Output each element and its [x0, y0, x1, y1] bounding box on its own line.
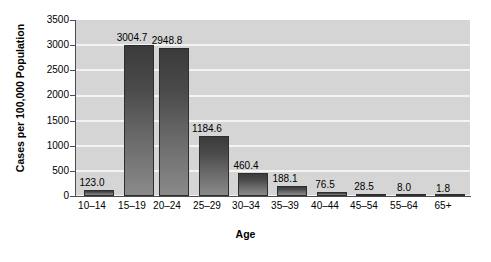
bar-value-label: 1184.6: [179, 123, 235, 134]
y-axis-tick-labels: 3500 3000 2500 2000 1500 1000 500 0: [29, 0, 69, 262]
y-tick-label: 500: [29, 166, 69, 176]
bar-value-label: 2948.8: [139, 35, 195, 46]
x-axis-line: [75, 196, 471, 197]
bar-value-label: 123.0: [64, 177, 120, 188]
y-tick-label: 3500: [29, 15, 69, 25]
bar-value-label: 460.4: [218, 160, 274, 171]
y-tick-label: 2000: [29, 90, 69, 100]
bar-chart: Cases per 100,000 Population 3500 3000 2…: [0, 0, 491, 262]
y-axis-title: Cases per 100,000 Population: [11, 0, 29, 196]
x-tick-label: 65+: [415, 200, 471, 211]
bar-value-label: 1.8: [415, 183, 471, 194]
bar[interactable]: [159, 48, 189, 196]
y-tick-label: 1500: [29, 116, 69, 126]
y-tick-label: 3000: [29, 40, 69, 50]
bar[interactable]: [124, 45, 154, 196]
y-tick-label: 1000: [29, 141, 69, 151]
y-tick-label: 0: [29, 191, 69, 201]
y-axis-line: [75, 20, 76, 197]
x-axis-title: Age: [0, 228, 491, 240]
y-tick-label: 2500: [29, 65, 69, 75]
